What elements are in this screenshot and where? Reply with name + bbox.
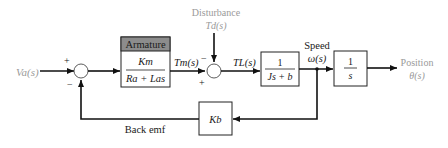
integrator-numerator: 1 <box>348 56 353 67</box>
input-label: Va(s) <box>16 66 39 79</box>
back-emf-gain-label: Kb <box>208 114 221 125</box>
back-emf-label: Back emf <box>125 124 166 135</box>
disturbance-signal: Td(s) <box>205 20 227 32</box>
disturbance-label: Disturbance <box>192 7 241 18</box>
summing-junction-1 <box>74 64 88 78</box>
output-label: Position <box>401 57 434 68</box>
load-denominator: Js + b <box>267 71 292 82</box>
speed-label: Speed <box>304 40 330 51</box>
output-signal: θ(s) <box>409 70 425 82</box>
integrator-block: 1 s <box>334 51 367 86</box>
motor-torque-label: Tm(s) <box>174 57 199 69</box>
armature-header-label: Armature <box>125 39 166 50</box>
sum2-minus-sign: − <box>201 53 207 64</box>
back-emf-gain-block: Kb <box>199 102 232 135</box>
sum1-minus-sign: − <box>67 79 73 90</box>
armature-numerator: Km <box>137 56 153 67</box>
armature-block: Armature Km Ra + Las <box>121 37 170 87</box>
load-block: 1 Js + b <box>261 52 299 86</box>
integrator-denominator: s <box>349 70 353 81</box>
summing-junction-2 <box>207 64 221 78</box>
armature-denominator: Ra + Las <box>125 73 165 84</box>
sum2-plus-sign: + <box>199 77 205 88</box>
speed-signal: ω(s) <box>308 53 327 65</box>
block-diagram: Va(s) + − Armature Km Ra + Las Tm(s) Dis… <box>0 0 448 148</box>
sum1-plus-sign: + <box>64 55 70 66</box>
load-torque-label: TL(s) <box>233 57 256 69</box>
load-numerator: 1 <box>278 57 283 68</box>
